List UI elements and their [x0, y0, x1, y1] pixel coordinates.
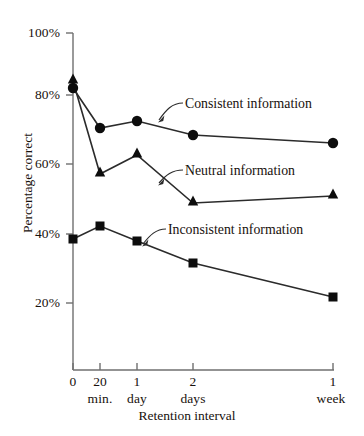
series-annotation-inconsistent: Inconsistent information [168, 222, 303, 238]
x-tick-unit-week: week [306, 391, 356, 407]
y-tick-label-20: 20% [16, 295, 60, 311]
marker-circle [188, 130, 198, 140]
series-annotation-consistent: Consistent information [185, 96, 312, 112]
x-tick-unit-day: day [112, 391, 162, 407]
marker-square [96, 222, 105, 231]
marker-square [189, 259, 198, 268]
x-tick-unit-days: days [168, 391, 218, 407]
x-axis-title: Retention interval [112, 408, 262, 424]
y-axis-title: Percentage correct [20, 108, 36, 258]
y-tick-label-80: 80% [16, 87, 60, 103]
y-axis-ticks [66, 33, 73, 303]
line-chart-plot [0, 0, 364, 436]
marker-circle [328, 138, 338, 148]
series-markers-consistent [68, 83, 338, 148]
marker-circle [95, 123, 105, 133]
x-axis-ticks [73, 363, 333, 370]
leader-consistent [159, 103, 183, 120]
marker-triangle [132, 148, 142, 158]
x-tick-label-20: 20 [80, 374, 120, 390]
x-tick-label-1-week-num: 1 [313, 374, 353, 390]
series-markers-neutral [68, 74, 338, 206]
marker-square [69, 235, 78, 244]
marker-triangle [68, 74, 78, 84]
marker-square [329, 293, 338, 302]
leader-arrow [158, 179, 164, 186]
x-tick-label-2-days-num: 2 [173, 374, 213, 390]
chart-figure: 100% 80% 60% 40% 20% 0 20 1 2 1 min. day… [0, 0, 364, 436]
y-tick-label-100: 100% [16, 25, 60, 41]
marker-square [133, 237, 142, 246]
marker-triangle [328, 189, 338, 199]
series-annotation-neutral: Neutral information [185, 163, 295, 179]
marker-circle [68, 83, 78, 93]
x-tick-label-1-day-num: 1 [117, 374, 157, 390]
marker-circle [132, 116, 142, 126]
